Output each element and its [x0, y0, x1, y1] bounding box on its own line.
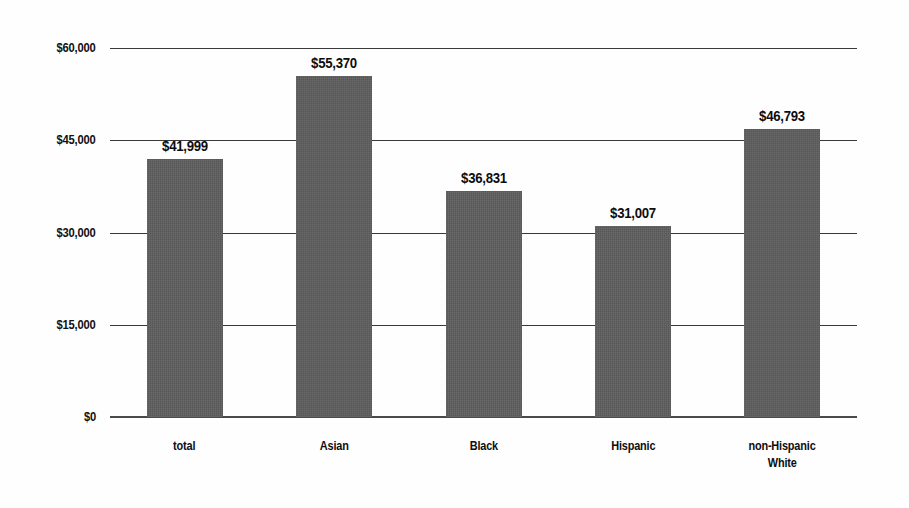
- bar-slot: $31,007: [595, 48, 671, 417]
- x-axis-tick-label-line: non-Hispanic: [708, 437, 857, 454]
- bar-value-label: $46,793: [756, 107, 808, 124]
- x-axis-tick-label: Hispanic: [558, 437, 707, 454]
- x-axis-tick-label-line: Hispanic: [558, 437, 707, 454]
- y-axis-tick-label: $30,000: [57, 225, 96, 240]
- bar-value-text: $46,793: [759, 107, 805, 124]
- bar-value-text: $36,831: [461, 169, 507, 186]
- bar: [595, 226, 671, 417]
- x-axis-tick-label: total: [110, 437, 259, 454]
- bar-slot: $36,831: [446, 48, 522, 417]
- x-axis-tick-label-line: total: [110, 437, 259, 454]
- y-axis-tick-label: $0: [84, 409, 96, 424]
- x-axis-tick-label-line: White: [708, 454, 857, 471]
- y-axis-tick-label: $45,000: [57, 132, 96, 147]
- x-axis-tick-labels: totalAsianBlackHispanicnon-HispanicWhite: [110, 437, 857, 497]
- bar-value-text: $41,999: [162, 137, 208, 154]
- y-axis-tick-labels: $0$15,000$30,000$45,000$60,000: [0, 48, 96, 417]
- x-axis-tick-label: Asian: [259, 437, 408, 454]
- plot-area: $41,999$55,370$36,831$31,007$46,793: [110, 48, 857, 417]
- bar-chart: $0$15,000$30,000$45,000$60,000 $41,999$5…: [0, 0, 909, 508]
- bar-slot: $41,999: [147, 48, 223, 417]
- x-axis-tick-label: Black: [409, 437, 558, 454]
- bar: [147, 159, 223, 417]
- x-axis-tick-label: non-HispanicWhite: [708, 437, 857, 471]
- bar: [296, 76, 372, 417]
- bar-value-text: $31,007: [610, 204, 656, 221]
- x-axis-tick-label-line: Asian: [259, 437, 408, 454]
- bar-slot: $46,793: [744, 48, 820, 417]
- bar-value-label: $55,370: [308, 54, 360, 71]
- y-axis-tick-label: $15,000: [57, 317, 96, 332]
- bar-slot: $55,370: [296, 48, 372, 417]
- bar-value-label: $41,999: [159, 137, 211, 154]
- bar: [744, 129, 820, 417]
- bar-value-text: $55,370: [311, 54, 357, 71]
- x-axis-tick-label-line: Black: [409, 437, 558, 454]
- bar-value-label: $36,831: [457, 169, 509, 186]
- bar-value-label: $31,007: [607, 204, 659, 221]
- bar: [446, 191, 522, 418]
- y-axis-tick-label: $60,000: [57, 40, 96, 55]
